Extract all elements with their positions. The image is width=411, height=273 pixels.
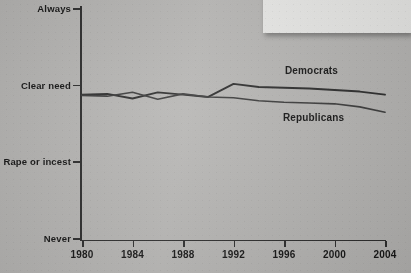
series-line-republicans bbox=[82, 92, 385, 112]
series-label-democrats: Democrats bbox=[285, 65, 338, 76]
figure-panel: obtain an abortion as a choice. AlwaysCl… bbox=[0, 0, 411, 273]
chart-plot-area bbox=[0, 0, 411, 273]
series-line-democrats bbox=[82, 84, 385, 99]
series-label-republicans: Republicans bbox=[283, 112, 344, 123]
